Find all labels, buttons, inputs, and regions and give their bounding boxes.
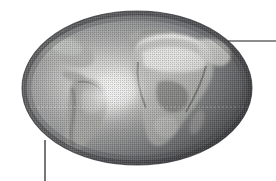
figure-root: Earth globe illustration [0,0,276,181]
globe-illustration [0,0,276,181]
